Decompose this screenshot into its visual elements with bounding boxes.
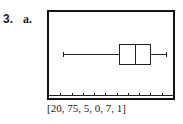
- median-line: [135, 44, 136, 65]
- window-settings: [20, 75, 5, 0, 7, 1]: [47, 102, 126, 114]
- calculator-screen: [47, 10, 175, 100]
- left-whisker: [63, 54, 119, 55]
- x-tick: [128, 93, 129, 96]
- problem-part: a.: [23, 12, 32, 27]
- x-tick: [105, 93, 106, 96]
- x-tick: [72, 93, 73, 96]
- x-tick: [150, 93, 151, 96]
- min-cap: [63, 52, 64, 57]
- max-cap: [166, 52, 167, 57]
- right-whisker: [150, 54, 166, 55]
- x-tick: [83, 93, 84, 96]
- x-axis: [49, 95, 173, 96]
- x-tick: [117, 93, 118, 96]
- x-tick: [94, 93, 95, 96]
- x-tick: [139, 93, 140, 96]
- x-tick: [60, 93, 61, 96]
- problem-number: 3.: [3, 12, 13, 26]
- x-tick: [162, 93, 163, 96]
